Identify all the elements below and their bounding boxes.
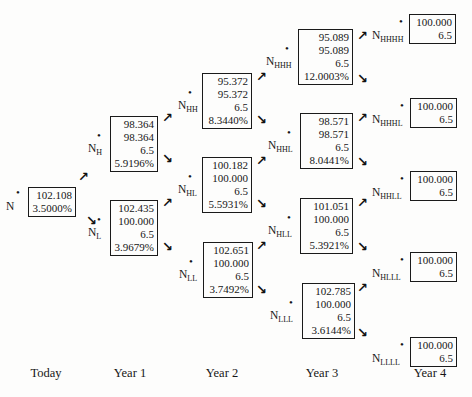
down-arrow-icon: ↘ [162, 240, 173, 253]
node-value: 6.5 [206, 101, 248, 114]
node-box-nhhll: 100.000 6.5 [410, 171, 457, 201]
node-label-nhl: NHL [178, 183, 197, 198]
node-label-sub: HH [186, 105, 198, 114]
node-value: 5.5931% [206, 198, 248, 211]
node-label-nhh: NHH [178, 99, 198, 114]
node-value: 5.9196% [114, 157, 154, 170]
up-arrow-icon: ↗ [162, 196, 173, 209]
node-value: 100.000 [414, 339, 453, 352]
node-label-nll: NLL [179, 268, 197, 283]
column-label-year4: Year 4 [414, 366, 446, 381]
down-arrow-icon: ↘ [162, 152, 173, 165]
node-value: 5.3921% [304, 239, 349, 252]
node-value: 3.6144% [306, 324, 351, 337]
up-arrow-icon: ↗ [357, 111, 368, 124]
bullet-icon: • [97, 130, 101, 140]
down-arrow-icon: ↘ [256, 197, 267, 210]
node-box-nllll: 100.000 6.5 [410, 337, 457, 367]
up-arrow-icon: ↗ [162, 111, 173, 124]
node-value: 102.108 [32, 189, 72, 202]
node-value: 100.000 [306, 298, 351, 311]
column-label-today: Today [30, 366, 61, 381]
up-arrow-icon: ↗ [256, 154, 267, 167]
bullet-icon: • [188, 87, 192, 97]
node-label-nl: NL [88, 226, 101, 241]
node-label-sub: HLL [276, 230, 292, 239]
column-label-year1: Year 1 [114, 366, 146, 381]
node-label-sub: LLLL [380, 358, 400, 367]
node-value: 98.571 [304, 128, 349, 141]
node-label-nh: NH [88, 142, 102, 157]
node-label-sub: HLLL [380, 273, 400, 282]
node-label-nlll: NLLL [270, 309, 293, 324]
node-box-nhhh: 95.089 95.089 6.5 12.0003% [298, 29, 353, 85]
node-label-nhlll: NHLLL [372, 267, 401, 282]
node-box-n: 102.108 3.5000% [28, 187, 76, 217]
node-value: 100.000 [414, 173, 453, 186]
node-label-sub: HHLL [380, 192, 401, 201]
node-value: 6.5 [413, 29, 452, 42]
up-arrow-icon: ↗ [256, 239, 267, 252]
bullet-icon: • [189, 256, 193, 266]
bullet-icon: • [400, 100, 404, 110]
node-value: 95.372 [206, 88, 248, 101]
node-value: 100.000 [206, 172, 248, 185]
node-value: 6.5 [114, 144, 154, 157]
node-box-nhhhh: 100.000 6.5 [409, 14, 456, 44]
node-value: 6.5 [207, 270, 249, 283]
node-label-n: N [6, 200, 14, 215]
bullet-icon: • [400, 339, 404, 349]
node-value: 6.5 [302, 57, 349, 70]
node-label-sub: LL [187, 274, 197, 283]
node-value: 101.051 [304, 200, 349, 213]
node-value: 6.5 [414, 113, 453, 126]
down-arrow-icon: ↘ [256, 283, 267, 296]
down-arrow-icon: ↘ [86, 214, 97, 227]
node-value: 100.000 [114, 215, 154, 228]
node-box-nll: 102.651 100.000 6.5 3.7492% [203, 242, 253, 298]
node-label-nhhll: NHHLL [372, 186, 402, 201]
node-label-nhhhl: NHHHL [372, 113, 403, 128]
node-value: 3.5000% [32, 202, 72, 215]
node-label-nhhhh: NHHHH [372, 29, 403, 44]
node-value: 3.7492% [207, 283, 249, 296]
up-arrow-icon: ↗ [256, 70, 267, 83]
down-arrow-icon: ↘ [357, 326, 368, 339]
node-value: 98.364 [114, 131, 154, 144]
node-value: 100.000 [304, 213, 349, 226]
node-box-nhlll: 100.000 6.5 [410, 252, 457, 282]
node-value: 100.182 [206, 159, 248, 172]
node-value: 98.571 [304, 115, 349, 128]
bullet-icon: • [188, 171, 192, 181]
node-value: 95.089 [302, 31, 349, 44]
bullet-icon: • [400, 173, 404, 183]
up-arrow-icon: ↗ [357, 281, 368, 294]
binomial-tree-diagram: • N 102.108 3.5000% • NH 98.364 98.364 6… [0, 0, 472, 397]
node-value: 100.000 [413, 16, 452, 29]
node-value: 8.0441% [304, 154, 349, 167]
node-value: 95.089 [302, 44, 349, 57]
node-value: 6.5 [304, 141, 349, 154]
node-value: 6.5 [114, 228, 154, 241]
node-value: 102.651 [207, 244, 249, 257]
node-value: 102.785 [306, 285, 351, 298]
bullet-icon: • [289, 297, 293, 307]
node-box-nhh: 95.372 95.372 6.5 8.3440% [202, 73, 252, 129]
node-value: 98.364 [114, 118, 154, 131]
node-value: 100.000 [414, 254, 453, 267]
bullet-icon: • [285, 43, 289, 53]
column-label-year2: Year 2 [206, 366, 238, 381]
node-label-nhhh: NHHH [266, 55, 292, 70]
up-arrow-icon: ↗ [357, 196, 368, 209]
down-arrow-icon: ↘ [357, 155, 368, 168]
node-box-nhl: 100.182 100.000 6.5 5.5931% [202, 157, 252, 213]
bullet-icon: • [287, 127, 291, 137]
up-arrow-icon: ↗ [357, 29, 368, 42]
node-label-sub: HHL [276, 145, 292, 154]
node-label-sub: LLL [278, 315, 293, 324]
node-box-nlll: 102.785 100.000 6.5 3.6144% [302, 283, 355, 339]
node-label-base: N [6, 200, 14, 212]
node-value: 6.5 [414, 267, 453, 280]
bullet-icon: • [287, 212, 291, 222]
node-box-nhhhl: 100.000 6.5 [410, 98, 457, 128]
